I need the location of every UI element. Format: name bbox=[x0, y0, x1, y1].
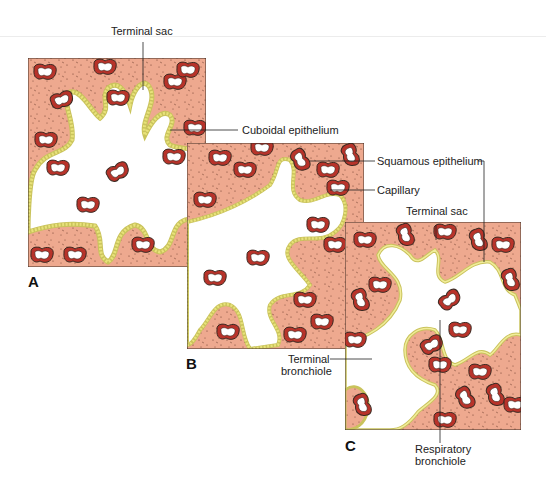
label-terminal-sac-c: Terminal sac bbox=[406, 205, 468, 217]
label-terminal-sac-a: Terminal sac bbox=[111, 25, 173, 37]
lung-development-diagram bbox=[0, 0, 546, 480]
panel-c bbox=[344, 222, 526, 430]
label-capillary: Capillary bbox=[377, 184, 420, 196]
panel-letter-c: C bbox=[345, 437, 356, 454]
panel-a bbox=[28, 58, 206, 267]
panel-letter-b: B bbox=[186, 355, 197, 372]
label-respiratory-bronchiole-line1: Respiratory bbox=[415, 443, 471, 455]
panel-letter-a: A bbox=[28, 273, 39, 290]
panel-b bbox=[187, 140, 364, 349]
label-terminal-bronchiole-line1: Terminal bbox=[288, 353, 328, 365]
label-cuboidal-epithelium: Cuboidal epithelium bbox=[242, 124, 339, 136]
label-squamous-epithelium: Squamous epithelium bbox=[377, 155, 483, 167]
label-terminal-bronchiole-line2: bronchiole bbox=[281, 365, 332, 377]
label-respiratory-bronchiole-line2: bronchiole bbox=[415, 455, 466, 467]
